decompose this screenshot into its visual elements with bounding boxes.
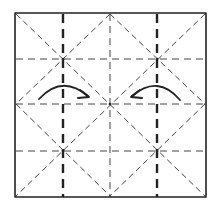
crease-intersection-point <box>62 58 65 61</box>
crease-intersection-point <box>156 58 159 61</box>
crease-intersection-point <box>156 150 159 153</box>
crease-pattern-canvas <box>0 0 213 209</box>
origami-diagram: Origami folding step: square base crease… <box>0 0 213 209</box>
right-fold-arrow-icon <box>131 86 180 100</box>
crease-intersection-point <box>109 103 112 106</box>
crease-intersection-point <box>62 150 65 153</box>
